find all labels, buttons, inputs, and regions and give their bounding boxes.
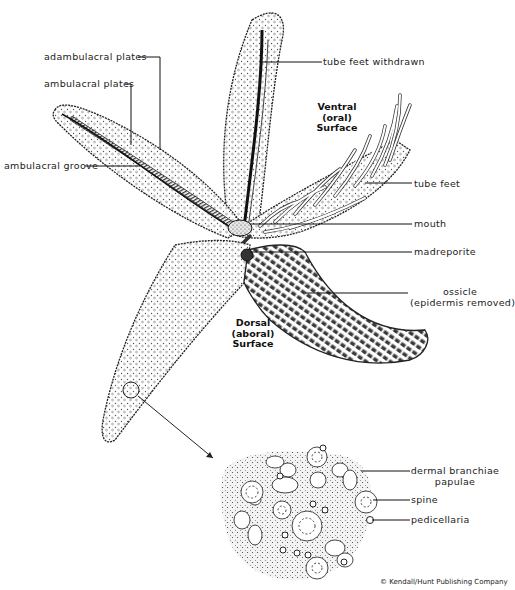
label-tube-feet-withdrawn: tube feet withdrawn <box>323 56 425 67</box>
papulae-text: papulae <box>410 476 500 487</box>
ventral-upper-arm <box>224 13 284 232</box>
ossicle-text: ossicle <box>410 286 510 297</box>
publisher-credit: © Kendall/Hunt Publishing Company <box>380 578 508 586</box>
label-ambulacral-groove: ambulacral groove <box>4 160 98 171</box>
magnified-skin-detail <box>221 445 377 580</box>
ventral-title-line1: Ventral <box>312 102 362 113</box>
ventral-title-line3: Surface <box>312 123 362 134</box>
label-spine: spine <box>411 494 438 505</box>
dorsal-title-line1: Dorsal <box>225 318 281 329</box>
dorsal-surface-title: Dorsal (aboral) Surface <box>225 318 281 350</box>
ossicle-note: (epidermis removed) <box>410 297 510 308</box>
ventral-surface-title: Ventral (oral) Surface <box>312 102 362 134</box>
dorsal-title-line3: Surface <box>225 339 281 350</box>
label-ossicle: ossicle (epidermis removed) <box>410 286 510 308</box>
label-dermal-branchiae: dermal branchiae papulae <box>410 465 500 487</box>
label-madreporite: madreporite <box>414 246 476 257</box>
label-mouth: mouth <box>414 218 446 229</box>
mouth-area <box>228 220 252 236</box>
label-pedicellaria: pedicellaria <box>411 514 470 525</box>
label-tube-feet: tube feet <box>414 178 460 189</box>
label-adambulacral-plates: adambulacral plates <box>44 51 147 62</box>
label-ambulacral-plates: ambulacral plates <box>44 78 134 89</box>
dermal-branchiae-text: dermal branchiae <box>410 465 500 476</box>
madreporite-plate <box>241 249 253 261</box>
